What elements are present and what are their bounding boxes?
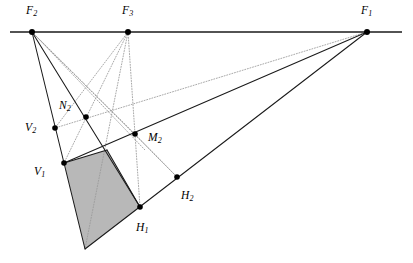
label-V1-subscript: 1 [41,170,45,179]
label-F3-base: F [122,4,129,16]
label-H2-subscript: 2 [190,194,194,203]
point-N2 [83,114,89,120]
label-V2-base: V [25,121,32,133]
point-F1 [364,29,370,35]
dotted-F3-to-V1 [64,32,128,163]
geometry-diagram [0,0,413,263]
point-F2 [29,29,35,35]
dotted-F3-to-V2 [55,32,128,128]
label-M2: M2 [148,132,162,145]
label-N2-base: N [59,99,67,111]
label-V2: V2 [25,122,36,135]
point-V2 [52,125,58,131]
line-F1-through-M2-to-V1 [64,32,367,163]
dotted-F2-to-H1-lower [32,32,145,150]
label-N2-subscript: 2 [67,104,71,113]
point-F3 [125,29,131,35]
label-M2-base: M [148,131,158,143]
label-H2: H2 [181,190,194,203]
label-V1: V1 [34,166,45,179]
label-M2-subscript: 2 [158,136,162,145]
point-H2 [174,174,180,180]
label-H1-base: H [136,221,144,233]
figure-canvas: F2F3F1N2V2M2V1H2H1 [0,0,413,263]
dotted-F1-to-V2 [55,32,367,128]
label-V2-subscript: 2 [32,126,36,135]
line-F1-through-H2-to-H1-apex [85,32,367,249]
label-H1: H1 [136,222,149,235]
label-F1: F1 [361,5,372,18]
label-H1-subscript: 1 [145,226,149,235]
point-H1 [137,204,143,210]
point-V1 [61,160,67,166]
label-F1-subscript: 1 [368,9,372,18]
label-F2-subscript: 2 [33,9,37,18]
label-F1-base: F [361,4,368,16]
label-F2: F2 [26,5,37,18]
label-F2-base: F [26,4,33,16]
point-M2 [132,131,138,137]
label-N2: N2 [59,100,71,113]
label-V1-base: V [34,165,41,177]
dotted-F3-to-H1 [128,32,140,207]
label-F3-subscript: 3 [129,9,133,18]
label-H2-base: H [181,189,189,201]
line-F2-to-bottom-apex [32,32,85,249]
label-F3: F3 [122,5,133,18]
